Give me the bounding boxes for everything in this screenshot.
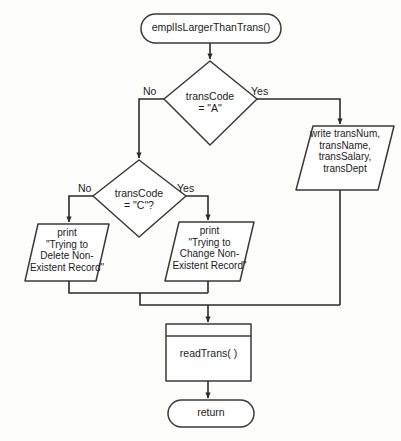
- write-trans-shape: [296, 126, 394, 190]
- flowchart-svg: [0, 0, 401, 441]
- edge-decision-c-no: [69, 196, 93, 222]
- flowchart-canvas: emplIsLargerThanTrans() transCode = "A" …: [0, 0, 401, 441]
- edge-decision-c-yes: [186, 196, 208, 220]
- edge-decision-a-yes: [257, 99, 340, 124]
- edge-print-delete-to-merge: [69, 281, 208, 293]
- edge-label-decision-c-no: No: [78, 182, 91, 194]
- end-terminator-shape: [168, 400, 254, 427]
- edge-label-decision-a-no: No: [143, 85, 156, 97]
- print-delete-shape: [25, 224, 109, 281]
- start-terminator-shape: [141, 14, 281, 43]
- print-change-shape: [165, 222, 254, 281]
- decision-a-shape: [164, 61, 257, 145]
- read-trans-shape: [166, 324, 251, 381]
- edge-label-decision-c-yes: Yes: [177, 182, 194, 194]
- edge-label-decision-a-yes: Yes: [251, 85, 268, 97]
- edge-merge1-to-merge2: [140, 293, 340, 305]
- edge-decision-a-no: [139, 99, 164, 158]
